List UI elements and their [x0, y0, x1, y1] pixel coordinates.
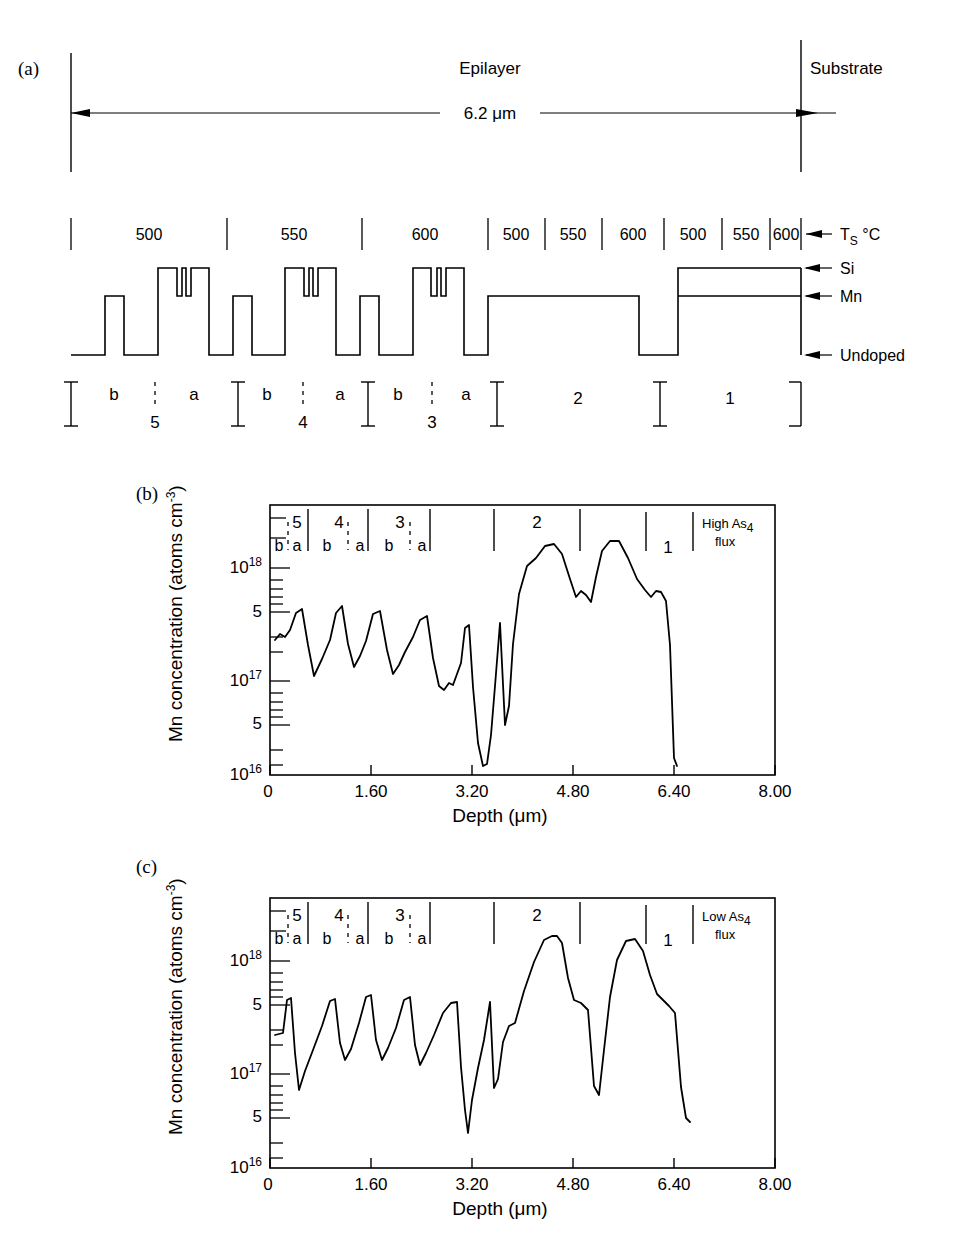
panel-b: (b) Mn concentration (atoms cm-3) 1018 5…: [136, 483, 792, 826]
panel-c: (c) Mn concentration (atoms cm-3) 1018 5…: [136, 856, 792, 1219]
panel-b-ytick-5e16: 5: [253, 714, 262, 733]
panel-b-region-2: 2: [532, 513, 541, 532]
panel-b-region-dividers: [308, 509, 693, 551]
thickness-label: 6.2 μm: [464, 104, 516, 123]
temp-label-1: 550: [281, 226, 308, 243]
panel-b-region-5: 5: [292, 513, 301, 532]
panel-b-ylabel: Mn concentration (atoms cm-3): [164, 485, 186, 742]
panel-c-xtick-0: 0: [263, 1175, 272, 1194]
si-level-label: Si: [840, 260, 854, 277]
subregion-label-4a: a: [335, 385, 345, 404]
panel-b-xtick-160: 1.60: [354, 782, 387, 801]
panel-c-region-dividers: [308, 902, 693, 944]
panel-a: (a) Epilayer 6.2 μm Substrate 500 550 60…: [18, 40, 905, 432]
region-number-1: 1: [725, 389, 734, 408]
ts-axis-label: TS °C: [840, 226, 880, 248]
panel-c-sub-3a: a: [418, 930, 427, 947]
mn-level-label: Mn: [840, 288, 862, 305]
region-number-4: 4: [298, 413, 307, 432]
panel-c-sub-5b: b: [275, 930, 284, 947]
panel-c-xtick-480: 4.80: [556, 1175, 589, 1194]
temp-label-2: 600: [412, 226, 439, 243]
panel-c-region-1: 1: [663, 931, 672, 950]
panel-b-xtick-800: 8.00: [758, 782, 791, 801]
figure-svg: (a) Epilayer 6.2 μm Substrate 500 550 60…: [0, 0, 959, 1248]
mn-arrowhead-icon: [804, 292, 820, 300]
level-pointers: Si Mn Undoped: [804, 260, 905, 364]
panel-b-sub-4b: b: [323, 537, 332, 554]
panel-b-xlabel: Depth (μm): [452, 805, 547, 826]
panel-c-sub-5a: a: [293, 930, 302, 947]
panel-c-xtick-160: 1.60: [354, 1175, 387, 1194]
panel-b-xticks: [270, 765, 775, 775]
panel-c-ytick-18: 1018: [230, 948, 263, 970]
subregion-label-4b: b: [262, 385, 271, 404]
temp-label-0: 500: [136, 226, 163, 243]
doping-step-profile: [71, 268, 801, 355]
panel-c-xlabel: Depth (μm): [452, 1198, 547, 1219]
temp-label-5: 600: [620, 226, 647, 243]
region-number-3: 3: [427, 413, 436, 432]
panel-b-region-4: 4: [334, 513, 343, 532]
panel-c-ytick-16: 1016: [230, 1155, 263, 1177]
panel-a-tag: (a): [18, 58, 39, 80]
si-arrowhead-icon: [804, 264, 820, 272]
arrowhead-right-icon: [796, 109, 818, 117]
panel-c-xticks: [270, 1158, 775, 1168]
panel-b-ytick-5e17: 5: [253, 602, 262, 621]
panel-b-plot-frame: [270, 505, 775, 775]
panel-c-sub-3b: b: [385, 930, 394, 947]
panel-b-sub-3b: b: [385, 537, 394, 554]
arrowhead-left-icon: [71, 109, 90, 117]
panel-c-ytick-5e17: 5: [253, 995, 262, 1014]
panel-c-ytick-17: 1017: [230, 1061, 263, 1083]
region-number-5: 5: [150, 413, 159, 432]
panel-c-sub-4b: b: [323, 930, 332, 947]
substrate-label: Substrate: [810, 59, 883, 78]
undoped-level-label: Undoped: [840, 347, 905, 364]
figure-root: (a) Epilayer 6.2 μm Substrate 500 550 60…: [0, 0, 959, 1248]
panel-b-tag: (b): [136, 483, 158, 505]
panel-c-region-4: 4: [334, 906, 343, 925]
subregion-label-3b: b: [393, 385, 402, 404]
temp-label-7: 550: [733, 226, 760, 243]
subregion-label-3a: a: [461, 385, 471, 404]
panel-b-profile-curve: [275, 541, 677, 766]
epilayer-label: Epilayer: [459, 59, 521, 78]
subregion-label-5a: a: [189, 385, 199, 404]
panel-b-yticks: [270, 518, 290, 765]
panel-c-xtick-800: 8.00: [758, 1175, 791, 1194]
panel-b-region-1: 1: [663, 538, 672, 557]
panel-c-region-5: 5: [292, 906, 301, 925]
panel-b-ytick-16: 1016: [230, 762, 263, 784]
temp-label-8: 600: [773, 226, 800, 243]
panel-b-xtick-480: 4.80: [556, 782, 589, 801]
panel-b-ytick-18: 1018: [230, 555, 263, 577]
ts-arrowhead-icon: [806, 230, 822, 238]
panel-c-tag: (c): [136, 856, 157, 878]
panel-c-flux-note-line1: Low As4: [702, 909, 751, 928]
panel-c-flux-note-line2: flux: [715, 927, 736, 942]
panel-c-profile-curve: [275, 936, 690, 1133]
panel-c-ytick-5e16: 5: [253, 1107, 262, 1126]
region-number-2: 2: [573, 389, 582, 408]
panel-b-ytick-17: 1017: [230, 668, 263, 690]
panel-b-sub-4a: a: [356, 537, 365, 554]
panel-c-region-2: 2: [532, 906, 541, 925]
panel-c-xtick-320: 3.20: [455, 1175, 488, 1194]
panel-b-xtick-0: 0: [263, 782, 272, 801]
panel-b-sub-5a: a: [293, 537, 302, 554]
panel-c-sub-4a: a: [356, 930, 365, 947]
panel-b-xtick-640: 6.40: [657, 782, 690, 801]
panel-c-plot-frame: [270, 898, 775, 1168]
panel-b-xtick-320: 3.20: [455, 782, 488, 801]
undoped-arrowhead-icon: [804, 351, 820, 359]
panel-c-ylabel: Mn concentration (atoms cm-3): [164, 878, 186, 1135]
panel-b-sub-3a: a: [418, 537, 427, 554]
panel-c-xtick-640: 6.40: [657, 1175, 690, 1194]
panel-b-flux-note-line2: flux: [715, 534, 736, 549]
temp-label-4: 550: [560, 226, 587, 243]
panel-b-flux-note-line1: High As4: [702, 516, 754, 535]
temp-label-3: 500: [503, 226, 530, 243]
panel-b-region-3: 3: [395, 513, 404, 532]
